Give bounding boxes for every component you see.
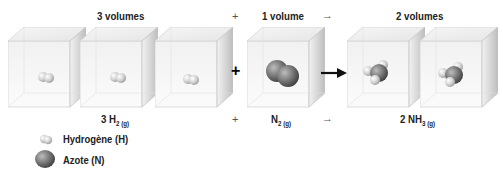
reaction-arrow-icon: [321, 68, 347, 78]
product-volume-label: 2 volumes: [396, 10, 443, 22]
h2-subscript: 2 (g): [116, 120, 129, 127]
n2-formula: N: [271, 113, 278, 125]
ammonia-cube-2: [420, 27, 498, 109]
nitrogen-legend-icon: [34, 149, 56, 169]
equation-reactant1: 3 H2 (g): [101, 113, 129, 125]
reaction-plus-icon: +: [231, 62, 240, 80]
n2-subscript: 2 (g): [278, 120, 291, 127]
h2-formula: 3 H: [101, 113, 116, 125]
hydrogen-cube-2: [80, 27, 158, 109]
equation-arrow: →: [322, 112, 333, 124]
equation-reactant2: N2 (g): [271, 113, 291, 125]
nh3-formula: 2 NH: [400, 113, 422, 125]
top-arrow: →: [322, 9, 333, 21]
reactant2-volume-label: 1 volume: [262, 10, 304, 22]
equation-plus-sign: +: [232, 113, 238, 125]
nitrogen-legend-label: Azote (N): [63, 154, 104, 166]
nh3-subscript: 3 (g): [422, 120, 435, 127]
top-plus-sign: +: [232, 10, 238, 22]
equation-product: 2 NH3 (g): [400, 113, 435, 125]
hydrogen-legend-icon: [39, 133, 53, 145]
ammonia-cube-1: [347, 27, 425, 109]
hydrogen-cube-1: [8, 27, 86, 109]
hydrogen-cube-3: [155, 27, 233, 109]
reactant1-volume-label: 3 volumes: [97, 10, 144, 22]
nitrogen-cube: [247, 27, 325, 109]
hydrogen-legend-label: Hydrogène (H): [63, 133, 128, 145]
